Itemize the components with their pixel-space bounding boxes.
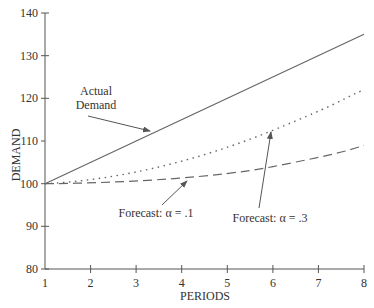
annotation-actual-demand-line2: Demand (76, 98, 117, 112)
y-tick-140: 140 (20, 6, 38, 20)
x-tick-1: 1 (42, 276, 48, 290)
demand-forecast-chart: 140 130 120 110 100 90 80 1 2 3 4 5 6 7 … (0, 0, 374, 308)
y-tick-130: 130 (20, 49, 38, 63)
arrow-forecast-alpha-0.3 (259, 132, 271, 208)
y-tick-90: 90 (26, 219, 38, 233)
series-forecast-alpha-0.1 (45, 145, 364, 183)
x-tick-3: 3 (133, 276, 139, 290)
x-tick-7: 7 (315, 276, 321, 290)
annotation-actual-demand-line1: Actual (80, 84, 113, 98)
x-tick-labels: 1 2 3 4 5 6 7 8 (42, 276, 367, 290)
y-tick-80: 80 (26, 262, 38, 276)
arrow-actual-demand (88, 116, 150, 131)
arrow-forecast-alpha-0.1 (162, 181, 187, 205)
x-axis-label: PERIODS (180, 289, 230, 303)
annotation-forecast-alpha-0.3: Forecast: α = .3 (232, 211, 307, 225)
x-tick-5: 5 (224, 276, 230, 290)
x-tick-4: 4 (179, 276, 185, 290)
x-tick-2: 2 (88, 276, 94, 290)
x-tick-8: 8 (361, 276, 367, 290)
y-tick-110: 110 (20, 134, 38, 148)
y-axis-label: DEMAND (9, 128, 23, 181)
annotation-forecast-alpha-0.1: Forecast: α = .1 (118, 206, 193, 220)
y-tick-120: 120 (20, 91, 38, 105)
x-tick-6: 6 (270, 276, 276, 290)
